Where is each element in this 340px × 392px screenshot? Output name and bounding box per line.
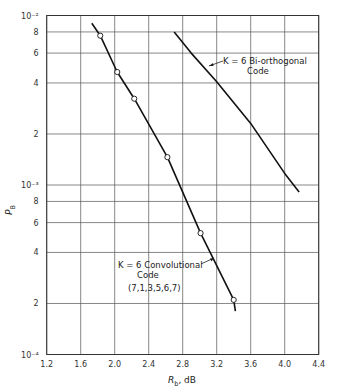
x-axis-label: Rb, dB <box>168 375 196 388</box>
y-tick-label: 8 <box>34 28 39 37</box>
y-tick-label: 6 <box>34 49 39 58</box>
x-tick-label: 4.0 <box>278 360 291 369</box>
y-tick-label: 8 <box>34 197 39 206</box>
label-convolutional: K = 6 Convolutional Code (7,1,3,5,6,7) <box>118 258 214 293</box>
data-point-marker <box>115 69 120 74</box>
x-tick-label: 4.4 <box>312 360 325 369</box>
y-axis-ticks: 10⁻²864210⁻³864210⁻⁴ <box>21 12 39 360</box>
y-tick-label: 2 <box>34 130 39 139</box>
y-tick-label: 2 <box>34 299 39 308</box>
label-biorthogonal: K = 6 Bi-orthogonal Code <box>209 56 307 76</box>
x-tick-label: 2.8 <box>176 360 189 369</box>
data-point-marker <box>98 33 103 38</box>
y-tick-label: 10⁻² <box>21 12 39 21</box>
y-tick-label: 6 <box>34 219 39 228</box>
x-tick-label: 3.2 <box>210 360 223 369</box>
x-tick-label: 1.6 <box>74 360 87 369</box>
x-tick-label: 2.4 <box>142 360 155 369</box>
x-tick-label: 3.6 <box>244 360 257 369</box>
data-point-marker <box>132 96 137 101</box>
y-tick-label: 4 <box>34 79 39 88</box>
data-point-marker <box>231 297 236 302</box>
x-tick-label: 1.2 <box>40 360 53 369</box>
label-convolutional-line2: Code <box>137 270 159 280</box>
y-tick-label: 10⁻³ <box>21 181 39 190</box>
label-biorthogonal-line2: Code <box>247 66 269 76</box>
data-point-marker <box>165 155 170 160</box>
label-convolutional-line1: K = 6 Convolutional <box>118 260 203 270</box>
chart: 10⁻²864210⁻³864210⁻⁴ 1.21.62.02.42.83.23… <box>0 0 340 392</box>
y-tick-label: 10⁻⁴ <box>21 351 39 360</box>
x-axis-ticks: 1.21.62.02.42.83.23.64.04.4 <box>40 360 325 369</box>
x-tick-label: 2.0 <box>108 360 121 369</box>
grid-lines <box>47 16 319 355</box>
y-tick-label: 4 <box>34 248 39 257</box>
data-point-marker <box>198 231 203 236</box>
y-axis-label: PB <box>4 205 17 215</box>
label-convolutional-line3: (7,1,3,5,6,7) <box>128 283 181 293</box>
label-biorthogonal-line1: K = 6 Bi-orthogonal <box>223 56 307 66</box>
